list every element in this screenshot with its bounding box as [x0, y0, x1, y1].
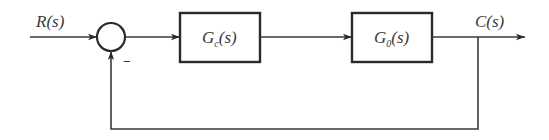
feedback-sign: −	[123, 54, 131, 69]
plant-label-main: G	[374, 28, 386, 47]
output-label: C(s)	[475, 12, 505, 31]
output-signal: C(s)	[432, 12, 525, 37]
input-signal: R(s)	[30, 12, 97, 37]
plant-block: G0(s)	[352, 13, 432, 62]
controller-label: Gc(s)	[202, 28, 237, 49]
plant-label: G0(s)	[374, 28, 410, 49]
controller-block: Gc(s)	[180, 13, 260, 62]
controller-label-arg: (s)	[219, 28, 237, 47]
controller-label-main: G	[202, 28, 214, 47]
plant-label-arg: (s)	[391, 28, 409, 47]
block-diagram: R(s) − Gc(s) G0(s) C(s)	[0, 0, 549, 140]
input-label: R(s)	[35, 12, 65, 31]
summing-circle	[97, 23, 125, 51]
summing-junction: −	[97, 23, 131, 69]
